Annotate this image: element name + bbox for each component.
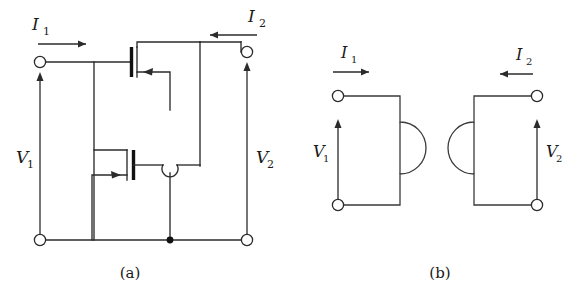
current-i2-arrow-b (500, 71, 533, 78)
label-v2-sub-a: 2 (267, 158, 274, 171)
voltage-v2-arrow-b (534, 119, 541, 204)
terminal-output-top-a[interactable] (241, 46, 252, 57)
label-i2-sub-a: 2 (259, 17, 266, 30)
label-i1-sub-a: 1 (43, 25, 50, 38)
caption-b: (b) (429, 264, 450, 282)
voltage-v1-arrow-a (37, 72, 44, 236)
voltage-v1-arrow-b (335, 119, 342, 204)
junction-dot-a (167, 237, 174, 244)
black-box-right-b (448, 96, 531, 205)
mosfet-top-source-arrow (143, 68, 153, 76)
panel-a: I 1 I 2 V 1 V 2 (16, 6, 274, 282)
label-i1-a: I (31, 14, 39, 34)
terminal-output-bottom-a[interactable] (241, 234, 252, 245)
terminal-output-bottom-b[interactable] (531, 199, 542, 210)
terminal-input-top-b[interactable] (332, 90, 343, 101)
current-i1-arrow-b (333, 69, 369, 76)
voltage-v2-arrow-a (244, 62, 251, 236)
label-v1-sub-a: 1 (27, 158, 34, 171)
current-i1-arrow-a (38, 41, 86, 48)
terminal-input-bottom-b[interactable] (332, 199, 343, 210)
label-v2-sub-b: 2 (556, 153, 562, 164)
mosfet-top-drain-lead (137, 42, 200, 47)
label-v1-sub-b: 1 (323, 153, 329, 164)
circuit-figure: I 1 I 2 V 1 V 2 (0, 0, 577, 294)
mosfet-top-source-lead (137, 72, 170, 110)
label-i2-b: I (515, 45, 523, 64)
label-i1-b: I (340, 43, 348, 62)
current-i2-arrow-a (210, 32, 257, 39)
terminal-output-top-b[interactable] (531, 90, 542, 101)
terminal-input-bottom-a[interactable] (34, 234, 45, 245)
panel-b: I 1 I 2 V 1 V 2 (313, 43, 562, 282)
caption-a: (a) (120, 264, 141, 282)
mosfet-bottom-source-arrow (111, 171, 121, 179)
black-box-left-b (344, 96, 426, 205)
label-i1-sub-b: 1 (351, 54, 357, 65)
label-i2-a: I (247, 6, 255, 26)
mosfet-bottom-source-lead (92, 175, 127, 240)
label-i2-sub-b: 2 (526, 56, 532, 67)
figure-svg: I 1 I 2 V 1 V 2 (0, 0, 577, 294)
terminal-input-top-a[interactable] (34, 56, 45, 67)
